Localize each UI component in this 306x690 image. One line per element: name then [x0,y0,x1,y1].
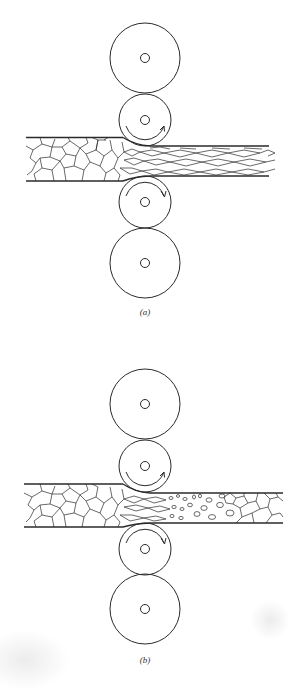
roll-axle-icon [141,259,150,268]
recrystallized-grains [169,493,283,523]
roll-axle-icon [141,54,150,63]
backup-roll-top [110,23,180,93]
panel-label-a: (a) [0,307,290,317]
roll-axle-icon [141,462,150,471]
work-roll-bottom [119,176,171,228]
rotation-arrow-icon [126,126,164,140]
rotation-arrow-icon [126,529,164,543]
metal-strip [26,138,269,182]
roll-axle-icon [141,116,150,125]
work-roll-top [119,94,171,146]
rolling-mill-diagram-a [0,0,306,343]
backup-roll-bottom [110,228,180,298]
roll-axle-icon [141,605,150,614]
panel-a: (a) [0,0,306,343]
equiaxed-grains [26,138,124,182]
scan-artifact [250,600,290,640]
rotation-arrow-icon [126,182,164,196]
roll-axle-icon [141,400,150,409]
roll-axle-icon [141,198,150,207]
equiaxed-grains [24,484,124,527]
work-roll-top [119,440,171,492]
rotation-arrow-icon [126,472,164,486]
elongated-grains [120,147,275,175]
backup-roll-bottom [110,574,180,644]
work-roll-bottom [119,523,171,575]
roll-axle-icon [141,545,150,554]
deformed-grains [120,496,170,521]
backup-roll-top [110,369,180,439]
